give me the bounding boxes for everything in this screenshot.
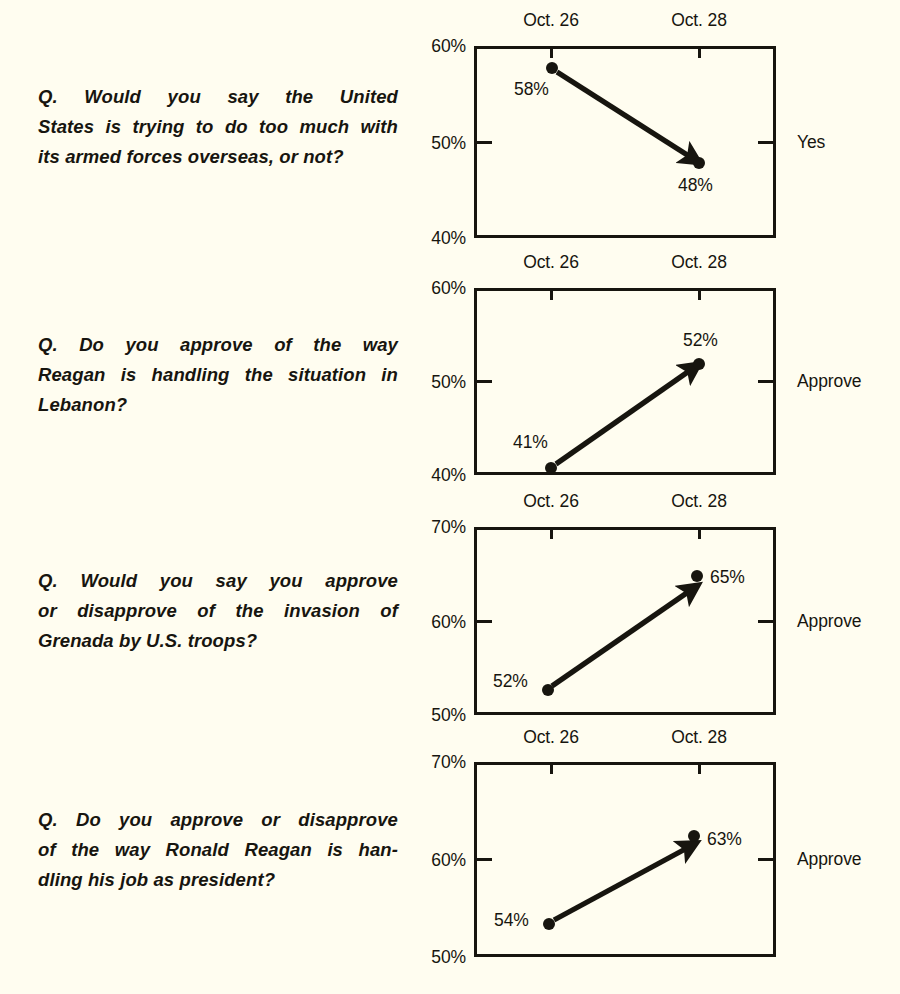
y-axis-label-bottom: 50% (414, 947, 466, 968)
column-header-oct28: Oct. 28 (671, 727, 727, 748)
tick-left-mid (474, 858, 492, 861)
series-label-4: Approve (797, 849, 861, 870)
value-label-oct28: 63% (707, 829, 742, 850)
tick-top-oct28 (698, 762, 701, 774)
poll-results-figure: Q. Would you say the United States is tr… (0, 0, 900, 994)
y-axis-label-top: 70% (414, 752, 466, 773)
value-label-oct26: 54% (494, 910, 529, 931)
tick-top-oct26 (550, 762, 553, 774)
column-header-oct26: Oct. 26 (523, 727, 579, 748)
chart-4: Oct. 26 Oct. 28 70% 60% 50% Approve 54% … (0, 0, 900, 994)
y-axis-label-mid: 60% (414, 850, 466, 871)
tick-right-mid (758, 858, 776, 861)
